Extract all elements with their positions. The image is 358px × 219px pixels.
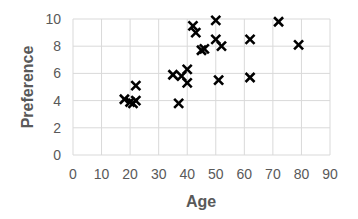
x-axis-title: Age: [186, 193, 216, 210]
x-marker-icon: [246, 73, 255, 82]
x-tick-label: 40: [179, 166, 195, 182]
y-tick-label: 6: [53, 65, 61, 81]
y-tick-label: 0: [53, 147, 61, 163]
x-tick-label: 70: [265, 166, 281, 182]
y-axis-title: Preference: [19, 46, 36, 129]
x-tick-label: 0: [69, 166, 77, 182]
x-tick-label: 50: [208, 166, 224, 182]
data-points: [120, 16, 303, 108]
x-tick-label: 20: [122, 166, 138, 182]
y-tick-label: 10: [45, 11, 61, 27]
x-marker-icon: [246, 35, 255, 44]
x-marker-icon: [131, 81, 140, 90]
y-tick-label: 8: [53, 38, 61, 54]
x-tick-label: 30: [151, 166, 167, 182]
x-axis-ticks: 0102030405060708090: [69, 166, 338, 182]
y-tick-label: 2: [53, 120, 61, 136]
x-tick-label: 60: [237, 166, 253, 182]
x-tick-label: 10: [94, 166, 110, 182]
x-tick-label: 90: [322, 166, 338, 182]
gridlines: [73, 19, 330, 155]
x-marker-icon: [168, 70, 177, 79]
x-tick-label: 80: [294, 166, 310, 182]
y-axis-ticks: 0246810: [45, 11, 61, 163]
scatter-chart: 0246810 0102030405060708090 Age Preferen…: [0, 0, 358, 219]
y-tick-label: 4: [53, 93, 61, 109]
